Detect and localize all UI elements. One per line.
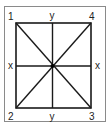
square-diagram: 1 y 4 x x 2 y 3: [0, 0, 110, 126]
corner-label-2: 2: [8, 111, 14, 122]
axis-label-x-left: x: [8, 60, 13, 71]
corner-label-4: 4: [89, 11, 95, 22]
axis-label-x-right: x: [95, 60, 100, 71]
center-point: [51, 64, 55, 68]
axis-label-y-bottom: y: [50, 111, 55, 122]
corner-label-1: 1: [8, 11, 14, 22]
axis-label-y-top: y: [50, 10, 55, 21]
corner-label-3: 3: [89, 111, 95, 122]
